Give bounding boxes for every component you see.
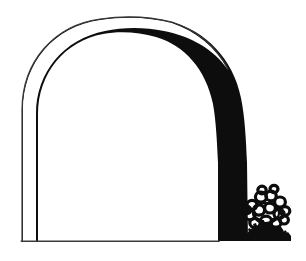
arch-drawing: [0, 0, 306, 261]
artboard: Arch Outline with Shrub Black and white …: [0, 0, 306, 261]
